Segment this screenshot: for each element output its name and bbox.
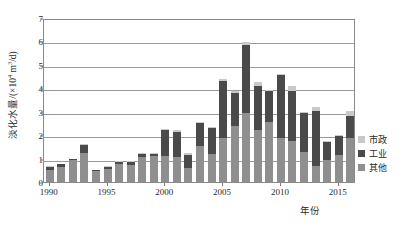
bar-segment-其他 [254, 130, 262, 182]
legend-item-市政: 市政 [358, 132, 406, 146]
bar-2004 [208, 127, 216, 183]
bar-segment-其他 [104, 169, 112, 182]
bar-segment-工业 [242, 45, 250, 113]
y-axis-title-mid: m [8, 65, 18, 75]
x-axis-tick-label: 1990 [40, 187, 58, 197]
x-axis-tick-mark [280, 183, 281, 186]
chart-figure: 淡化水量/(×104 m3/d) 01234567 19901995200020… [0, 0, 406, 227]
bar-segment-其他 [265, 122, 273, 182]
bar-1993 [80, 144, 88, 182]
bar-segment-其他 [69, 160, 77, 182]
bar-segment-其他 [231, 126, 239, 182]
bar-2012 [300, 112, 308, 182]
bar-2006 [231, 91, 239, 182]
bar-segment-工业 [173, 132, 181, 158]
y-axis-title-wrap: 淡化水量/(×104 m3/d) [0, 0, 24, 190]
x-axis-tick-mark [338, 183, 339, 186]
bar-2003 [196, 122, 204, 182]
bar-2014 [323, 141, 331, 182]
bar-segment-其他 [335, 155, 343, 182]
bar-2002 [184, 153, 192, 182]
bar-2001 [173, 130, 181, 182]
x-axis-tick-mark [107, 183, 108, 186]
bar-segment-其他 [277, 138, 285, 183]
bar-segment-工业 [184, 155, 192, 168]
x-axis-tick-label: 2000 [155, 187, 173, 197]
x-axis-tick-mark [222, 183, 223, 186]
x-axis-tick-mark [164, 183, 165, 186]
bar-segment-其他 [150, 156, 158, 182]
bar-2016 [346, 111, 354, 182]
y-axis-title-suffix: /d) [8, 51, 18, 62]
bar-segment-其他 [208, 154, 216, 182]
bar-segment-工业 [254, 86, 262, 131]
bar-segment-其他 [312, 166, 320, 182]
bar-segment-其他 [219, 138, 227, 183]
bar-segment-工业 [277, 75, 285, 137]
bar-segment-工业 [300, 113, 308, 152]
bar-1992 [69, 159, 77, 182]
bar-1996 [115, 161, 123, 182]
bar-segment-工业 [196, 123, 204, 145]
legend-item-其他: 其他 [358, 160, 406, 174]
x-axis-tick-mark [49, 183, 50, 186]
bar-segment-其他 [115, 164, 123, 182]
legend-item-工业: 工业 [358, 146, 406, 160]
bar-2005 [219, 79, 227, 182]
bar-2013 [312, 107, 320, 182]
legend-label: 市政 [369, 133, 387, 146]
bar-segment-其他 [300, 152, 308, 182]
bar-segment-工业 [312, 111, 320, 166]
bar-2009 [265, 90, 273, 182]
bar-1999 [150, 153, 158, 182]
bar-segment-工业 [219, 81, 227, 137]
bar-segment-工业 [335, 136, 343, 155]
bar-segment-工业 [161, 130, 169, 156]
bar-segment-工业 [265, 91, 273, 123]
bar-segment-其他 [161, 156, 169, 182]
bar-segment-其他 [127, 165, 135, 182]
bar-segment-工业 [208, 128, 216, 154]
bar-segment-工业 [288, 91, 296, 141]
x-axis-tick-label: 2015 [329, 187, 347, 197]
y-axis-title-prefix: 淡化水量/(×10 [8, 78, 18, 139]
bar-segment-其他 [346, 138, 354, 183]
bar-segment-其他 [80, 153, 88, 182]
bar-segment-其他 [196, 146, 204, 182]
chart-legend: 市政工业其他 [358, 132, 406, 174]
bar-segment-其他 [242, 113, 250, 182]
bar-segment-其他 [288, 141, 296, 182]
bar-2015 [335, 135, 343, 182]
plot-area [43, 19, 355, 183]
bar-1991 [57, 164, 65, 182]
bar-1997 [127, 161, 135, 182]
y-axis-title-exp2: 3 [6, 62, 13, 65]
bar-segment-其他 [184, 168, 192, 182]
legend-swatch-icon [358, 164, 365, 171]
y-axis-title-exp1: 4 [6, 75, 13, 78]
bar-2007 [242, 42, 250, 182]
bar-series-container [44, 20, 354, 182]
bar-segment-其他 [57, 167, 65, 182]
legend-label: 其他 [369, 161, 387, 174]
y-axis-title: 淡化水量/(×104 m3/d) [5, 51, 19, 139]
bar-1998 [138, 153, 146, 182]
bar-segment-其他 [46, 170, 54, 182]
bar-1994 [92, 170, 100, 182]
bar-segment-工业 [346, 116, 354, 137]
bar-2008 [254, 82, 262, 182]
bar-2011 [288, 86, 296, 182]
x-axis-tick-label: 2005 [213, 187, 231, 197]
x-axis-tick-label: 2010 [271, 187, 289, 197]
bar-2010 [277, 74, 285, 182]
legend-swatch-icon [358, 136, 365, 143]
bar-segment-其他 [92, 171, 100, 182]
bar-segment-其他 [173, 157, 181, 182]
x-axis-title: 年份 [300, 203, 320, 217]
bar-1995 [104, 166, 112, 182]
bar-segment-工业 [231, 93, 239, 126]
bar-segment-其他 [323, 160, 331, 182]
bar-segment-其他 [138, 157, 146, 182]
legend-swatch-icon [358, 150, 365, 157]
legend-label: 工业 [369, 147, 387, 160]
